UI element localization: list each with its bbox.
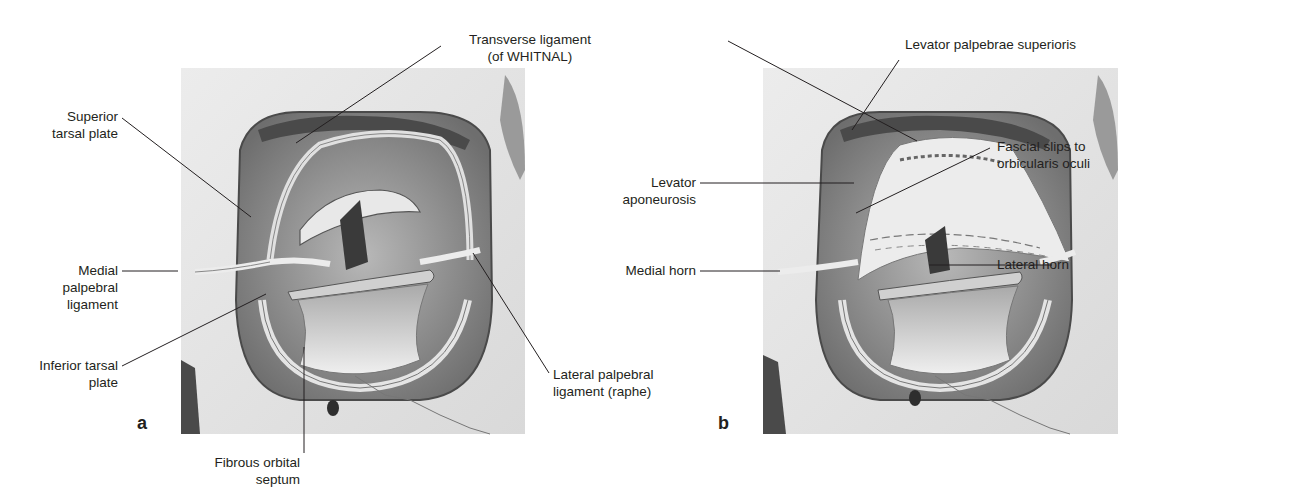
- label-line: Inferior tarsal: [20, 357, 118, 374]
- label-line: ligament (raphe): [553, 383, 654, 400]
- label-medial-palpebral-ligament: Medial palpebral ligament: [40, 262, 118, 313]
- label-line: Levator: [600, 174, 696, 191]
- label-line: Fascial slips to: [997, 138, 1090, 155]
- label-line: palpebral: [40, 279, 118, 296]
- label-line: Transverse ligament: [442, 31, 618, 48]
- label-line: Fibrous orbital: [200, 454, 300, 471]
- label-levator-aponeurosis: Levator aponeurosis: [600, 174, 696, 208]
- label-line: Levator palpebrae superioris: [905, 36, 1076, 53]
- label-fascial-slips: Fascial slips to orbicularis oculi: [997, 138, 1090, 172]
- label-lateral-palpebral-ligament: Lateral palpebral ligament (raphe): [553, 366, 654, 400]
- label-transverse-ligament: Transverse ligament (of WHITNAL): [442, 31, 618, 65]
- label-line: Medial horn: [596, 262, 696, 279]
- label-lateral-horn: Lateral horn: [997, 256, 1069, 273]
- panel-letter-b: b: [718, 413, 729, 434]
- panel-a-art: [181, 68, 525, 434]
- panel-b-art: [763, 68, 1118, 434]
- label-line: aponeurosis: [600, 191, 696, 208]
- label-line: Lateral horn: [997, 256, 1069, 273]
- label-superior-tarsal-plate: Superior tarsal plate: [40, 108, 118, 142]
- label-line: (of WHITNAL): [442, 48, 618, 65]
- label-inferior-tarsal-plate: Inferior tarsal plate: [20, 357, 118, 391]
- label-line: Superior: [40, 108, 118, 125]
- label-line: Medial: [40, 262, 118, 279]
- label-medial-horn: Medial horn: [596, 262, 696, 279]
- label-line: plate: [20, 374, 118, 391]
- label-line: septum: [200, 471, 300, 488]
- label-line: tarsal plate: [40, 125, 118, 142]
- orbit-illustration-a: [0, 0, 1313, 501]
- label-line: ligament: [40, 296, 118, 313]
- label-levator-palpebrae-superioris: Levator palpebrae superioris: [905, 36, 1076, 53]
- label-fibrous-orbital-septum: Fibrous orbital septum: [200, 454, 300, 488]
- panel-letter-a: a: [137, 413, 147, 434]
- label-line: Lateral palpebral: [553, 366, 654, 383]
- label-line: orbicularis oculi: [997, 155, 1090, 172]
